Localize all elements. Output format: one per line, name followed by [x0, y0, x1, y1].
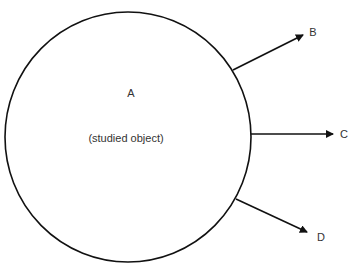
diagram-canvas [0, 0, 350, 273]
output-label-b: B [309, 26, 316, 38]
object-caption: (studied object) [88, 132, 163, 144]
output-label-d: D [317, 231, 325, 243]
arrow-to-d [236, 199, 307, 232]
arrow-to-b [233, 35, 303, 70]
output-label-c: C [340, 128, 348, 140]
object-label: A [127, 87, 134, 99]
